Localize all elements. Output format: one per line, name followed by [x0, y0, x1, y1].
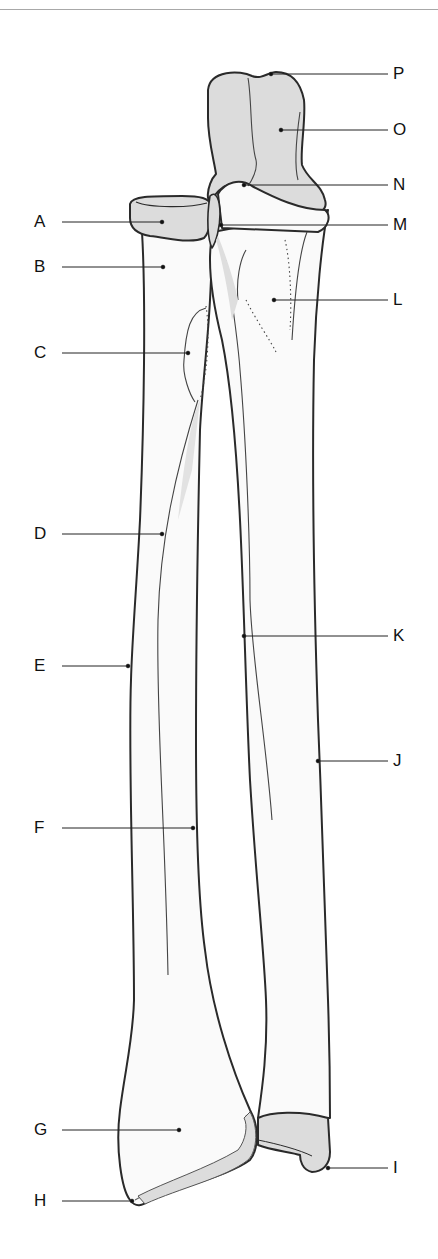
label-d: D — [34, 525, 46, 542]
label-h: H — [34, 1192, 46, 1209]
label-l: L — [393, 291, 402, 308]
label-j: J — [393, 752, 402, 769]
label-b: B — [34, 258, 45, 275]
label-p: P — [393, 65, 404, 82]
label-k: K — [393, 627, 404, 644]
label-m: M — [393, 216, 407, 233]
forearm-bones-illustration — [0, 0, 438, 1259]
label-n: N — [393, 176, 405, 193]
label-f: F — [34, 819, 44, 836]
label-o: O — [393, 121, 406, 138]
label-c: C — [34, 344, 46, 361]
label-a: A — [34, 213, 45, 230]
label-i: I — [393, 1159, 398, 1176]
label-g: G — [34, 1121, 47, 1138]
label-e: E — [34, 657, 45, 674]
ulna-bone — [208, 72, 330, 1172]
